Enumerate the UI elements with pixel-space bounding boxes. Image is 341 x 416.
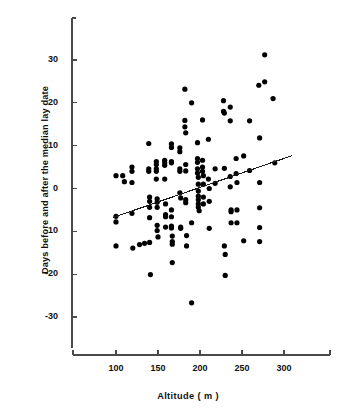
- data-point: [189, 300, 194, 305]
- data-point: [182, 124, 187, 129]
- data-point: [207, 199, 212, 204]
- data-point: [196, 182, 201, 187]
- data-point: [200, 117, 205, 122]
- data-point: [234, 207, 239, 212]
- axes-group: [72, 18, 330, 355]
- data-point: [234, 220, 239, 225]
- data-point: [129, 169, 134, 174]
- x-tick-label: 250: [222, 363, 262, 373]
- data-point: [200, 169, 205, 174]
- data-point: [241, 153, 246, 158]
- data-point: [222, 111, 227, 116]
- data-point: [247, 118, 252, 123]
- data-point: [155, 234, 160, 239]
- data-point: [223, 252, 228, 257]
- data-point: [183, 168, 188, 173]
- data-point: [195, 170, 200, 175]
- data-point: [221, 98, 226, 103]
- data-point: [169, 160, 174, 165]
- data-point: [162, 176, 167, 181]
- data-point: [241, 238, 246, 243]
- data-point: [182, 118, 187, 123]
- data-point: [148, 272, 153, 277]
- data-point: [257, 135, 262, 140]
- data-point: [256, 83, 261, 88]
- data-point: [262, 79, 267, 84]
- data-point: [234, 180, 239, 185]
- x-tick-label: 200: [180, 363, 220, 373]
- data-point: [113, 243, 118, 248]
- data-point: [120, 173, 125, 178]
- data-point: [169, 145, 174, 150]
- data-point: [228, 209, 233, 214]
- data-point: [169, 207, 174, 212]
- data-point: [207, 186, 212, 191]
- data-point: [182, 87, 187, 92]
- data-point: [270, 96, 275, 101]
- data-point: [163, 201, 168, 206]
- data-point: [155, 223, 160, 228]
- data-point: [262, 52, 267, 57]
- x-tick-label: 150: [138, 363, 178, 373]
- data-point: [257, 239, 262, 244]
- data-point: [146, 169, 151, 174]
- data-point: [184, 243, 189, 248]
- data-point: [155, 228, 160, 233]
- data-point: [162, 163, 167, 168]
- data-point: [147, 240, 152, 245]
- data-point: [147, 215, 152, 220]
- data-point: [163, 224, 168, 229]
- scatter-plot-figure: 3020100-10-20-30 100150200250300 Days be…: [0, 0, 341, 416]
- data-point: [183, 130, 188, 135]
- data-point: [142, 241, 147, 246]
- data-point: [200, 158, 205, 163]
- y-axis-title: Days before and after the median lay dat…: [40, 40, 50, 320]
- data-point: [183, 200, 188, 205]
- x-tick-label: 100: [96, 363, 136, 373]
- x-tick-label: 300: [264, 363, 304, 373]
- data-point: [177, 149, 182, 154]
- data-point: [197, 208, 202, 213]
- data-point: [169, 225, 174, 230]
- data-point: [213, 166, 218, 171]
- data-point: [196, 188, 201, 193]
- data-point: [234, 156, 239, 161]
- data-point: [137, 242, 142, 247]
- data-point: [146, 141, 151, 146]
- data-point: [147, 199, 152, 204]
- data-point: [154, 176, 159, 181]
- data-point: [207, 226, 212, 231]
- data-point: [195, 160, 200, 165]
- data-point: [222, 243, 227, 248]
- data-point: [228, 105, 233, 110]
- data-point: [257, 180, 262, 185]
- data-point: [222, 166, 227, 171]
- data-point: [257, 225, 262, 230]
- data-point: [177, 166, 182, 171]
- data-point: [189, 100, 194, 105]
- data-point: [206, 176, 211, 181]
- data-point: [122, 179, 127, 184]
- data-point: [184, 233, 189, 238]
- data-point: [196, 175, 201, 180]
- data-point: [130, 245, 135, 250]
- data-points-group: [113, 52, 277, 305]
- data-point: [228, 220, 233, 225]
- data-point: [201, 173, 206, 178]
- data-point: [129, 180, 134, 185]
- data-point: [206, 137, 211, 142]
- data-point: [223, 273, 228, 278]
- x-axis-title: Altitude ( m ): [73, 391, 303, 401]
- data-point: [113, 173, 118, 178]
- data-point: [201, 201, 206, 206]
- data-point: [257, 205, 262, 210]
- data-point: [228, 184, 233, 189]
- data-point: [178, 195, 183, 200]
- data-point: [195, 140, 200, 145]
- data-point: [183, 162, 188, 167]
- data-point: [113, 219, 118, 224]
- data-point: [228, 118, 233, 123]
- data-point: [170, 242, 175, 247]
- data-point: [163, 214, 168, 219]
- data-point: [169, 214, 174, 219]
